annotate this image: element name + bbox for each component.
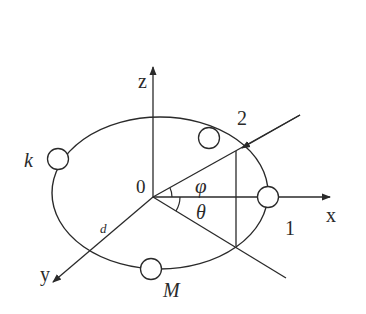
distance-label: d	[100, 221, 107, 236]
antenna-array-diagram: z x y 0 φ θ 2 1 d k M	[0, 0, 366, 314]
node-1-label: 1	[285, 217, 295, 239]
theta-label: θ	[196, 201, 206, 223]
node-M-label: M	[162, 279, 181, 301]
node-1	[258, 187, 279, 208]
node-M	[141, 259, 162, 280]
node-top	[199, 128, 220, 149]
x-axis-label: x	[326, 204, 336, 226]
phi-angle-arc	[170, 188, 172, 197]
phi-label: φ	[195, 174, 207, 198]
origin-label: 0	[136, 176, 146, 197]
ray-label-2: 2	[237, 107, 247, 129]
incoming-ray-arrow	[242, 115, 300, 148]
node-k-label: k	[24, 149, 34, 171]
y-axis	[53, 197, 153, 282]
node-k	[48, 149, 69, 170]
theta-angle-arc	[176, 197, 180, 211]
y-axis-label: y	[40, 263, 50, 286]
z-axis-label: z	[138, 70, 147, 92]
